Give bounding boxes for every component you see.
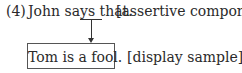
- example-number: (4): [6, 3, 26, 19]
- display-sample-label: [display sample]: [127, 49, 242, 65]
- display-sample-box: Tom is a fool.: [27, 43, 115, 69]
- display-sample-text: Tom is a fool.: [28, 49, 114, 65]
- assertive-component-label: [assertive component]: [116, 3, 242, 19]
